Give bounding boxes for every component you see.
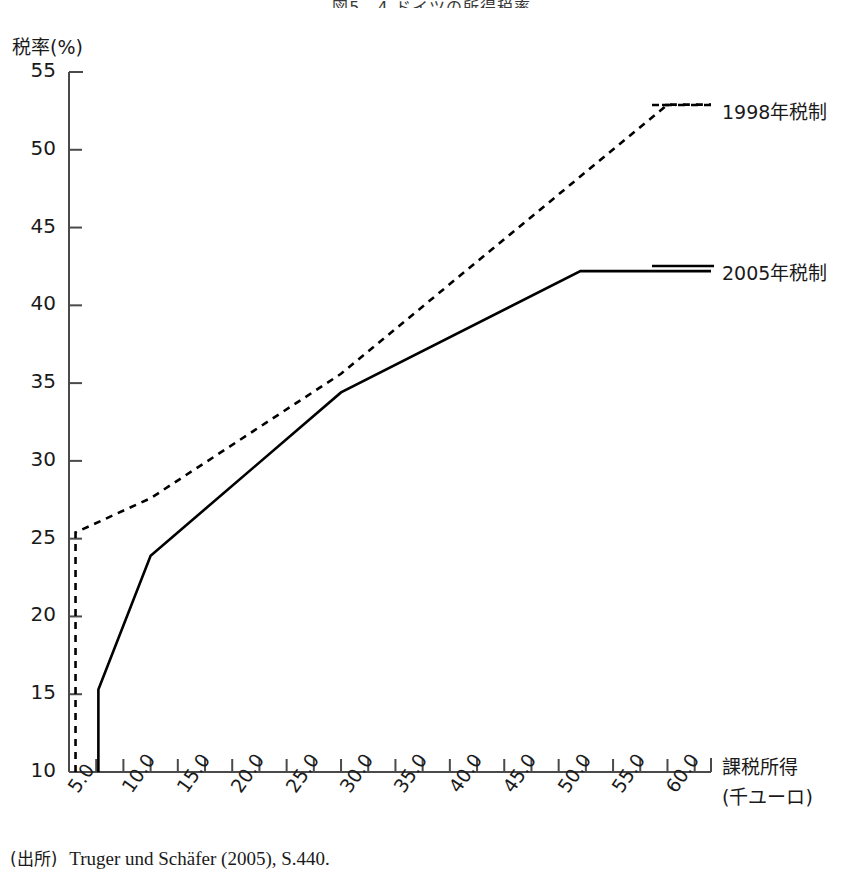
y-tick-label: 40 <box>12 291 56 315</box>
y-tick-label: 55 <box>12 58 56 82</box>
y-tick-label: 45 <box>12 214 56 238</box>
y-tick-label: 20 <box>12 602 56 626</box>
figure-root: 図5―4 ドイツの所得税率 税率(%) 課税所得 (千ユーロ) 10152025… <box>0 0 863 880</box>
source-note: (出所)Truger und Schäfer (2005), S.440. <box>10 845 330 870</box>
y-tick-label: 30 <box>12 447 56 471</box>
y-tick-label: 35 <box>12 369 56 393</box>
y-tick-label: 50 <box>12 136 56 160</box>
y-tick-label: 10 <box>12 758 56 782</box>
x-axis-ticks <box>69 759 695 772</box>
source-prefix: (出所) <box>10 849 57 869</box>
series-line-1998年税制 <box>76 105 711 772</box>
y-tick-label: 25 <box>12 525 56 549</box>
y-tick-label: 15 <box>12 680 56 704</box>
data-series-group <box>76 105 711 772</box>
legend-marks <box>652 105 714 266</box>
legend-item-1998: 1998年税制 <box>722 97 827 124</box>
series-line-2005年税制 <box>98 271 711 772</box>
legend-item-2005: 2005年税制 <box>722 258 827 285</box>
axis-lines <box>69 72 711 772</box>
plot-area <box>0 0 863 880</box>
source-text: Truger und Schäfer (2005), S.440. <box>69 848 330 869</box>
